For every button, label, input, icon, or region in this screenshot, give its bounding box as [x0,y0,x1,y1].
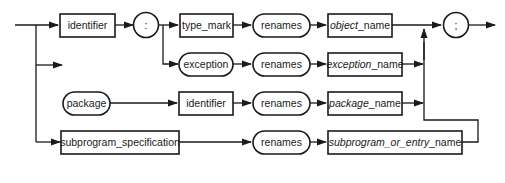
node-type-mark: type_mark [180,14,233,37]
node-renames-3-label: renames [261,97,302,109]
node-exception-label: exception [184,58,229,70]
syntax-diagram: identifier : type_mark renames object_na… [0,0,505,183]
node-subprogram-specification: subprogram_specification [60,131,180,154]
connector-lines [15,25,495,142]
node-renames-2: renames [253,53,310,76]
node-package-name: package_name [328,92,402,115]
node-subprogram-or-entry-name-label: subprogram_or_entry_name [329,136,462,148]
node-semicolon-label: ; [455,19,458,31]
node-exception: exception [179,53,233,76]
node-package: package [63,92,110,115]
node-colon-label: : [145,19,148,31]
node-package-label: package [67,97,107,109]
node-renames-3: renames [253,92,310,115]
node-identifier-label: identifier [68,19,108,31]
node-renames-4-label: renames [261,136,302,148]
node-package-name-label: package_name [328,97,401,109]
node-semicolon: ; [444,13,469,38]
node-renames-1-label: renames [261,19,302,31]
node-renames-1: renames [253,14,310,37]
node-renames-4: renames [253,131,310,154]
node-subprogram-specification-label: subprogram_specification [60,136,180,148]
node-object-name-label: object_name [330,19,390,31]
node-object-name: object_name [328,14,392,37]
node-identifier-2: identifier [179,92,233,115]
node-exception-name-label: exception_name [326,58,403,70]
node-type-mark-label: type_mark [182,19,232,31]
node-identifier: identifier [60,14,115,37]
node-colon: : [134,13,159,38]
node-subprogram-or-entry-name: subprogram_or_entry_name [328,131,462,154]
node-exception-name: exception_name [326,53,403,76]
node-identifier-2-label: identifier [186,97,226,109]
node-renames-2-label: renames [261,58,302,70]
